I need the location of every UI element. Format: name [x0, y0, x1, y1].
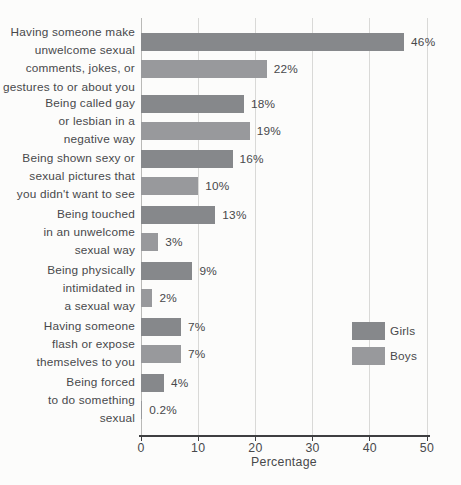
category-label: Having someone flash or expose themselve…	[0, 317, 135, 372]
value-label: 2%	[159, 289, 176, 307]
x-axis-tick-label: 40	[355, 441, 385, 455]
legend-swatch-girls	[352, 322, 385, 340]
y-axis-line	[141, 18, 142, 435]
category-label: Being forced to do something sexual	[0, 373, 135, 428]
category-label: Being shown sexy or sexual pictures that…	[0, 149, 135, 204]
value-label: 7%	[188, 345, 205, 363]
bar-boys	[141, 60, 267, 78]
value-label: 4%	[171, 374, 188, 392]
gridline	[198, 18, 199, 435]
category-label: Being touched in an unwelcome sexual way	[0, 205, 135, 260]
value-label: 46%	[411, 33, 435, 51]
value-label: 13%	[222, 206, 246, 224]
gridline	[369, 18, 370, 435]
bar-girls	[141, 95, 244, 113]
bar-boys	[141, 122, 250, 140]
category-label: Being physically intimidated in a sexual…	[0, 261, 135, 316]
value-label: 7%	[188, 318, 205, 336]
x-axis-tick-label: 10	[183, 441, 213, 455]
value-label: 0.2%	[149, 401, 177, 419]
value-label: 3%	[165, 233, 182, 251]
bar-boys	[141, 345, 181, 363]
bar-boys	[141, 233, 158, 251]
x-axis-title: Percentage	[141, 455, 427, 469]
bar-girls	[141, 33, 404, 51]
gridline	[427, 18, 428, 435]
harassment-bar-chart: 46%18%16%13%9%7%4%22%19%10%3%2%7%0.2% Pe…	[0, 0, 461, 485]
legend-label-girls: Girls	[390, 322, 415, 340]
gridline	[312, 18, 313, 435]
value-label: 19%	[257, 122, 281, 140]
value-label: 9%	[199, 262, 216, 280]
value-label: 10%	[205, 177, 229, 195]
category-label: Being called gay or lesbian in a negativ…	[0, 94, 135, 149]
value-label: 18%	[251, 95, 275, 113]
bar-boys	[141, 401, 142, 419]
value-label: 22%	[274, 60, 298, 78]
x-axis-tick-label: 0	[126, 441, 156, 455]
plot-area: 46%18%16%13%9%7%4%22%19%10%3%2%7%0.2%	[141, 18, 427, 435]
bar-girls	[141, 374, 164, 392]
bar-girls	[141, 262, 192, 280]
bar-boys	[141, 289, 152, 307]
x-axis-line	[139, 435, 430, 437]
gridline	[255, 18, 256, 435]
bar-girls	[141, 150, 233, 168]
value-label: 16%	[240, 150, 264, 168]
x-axis-tick-label: 50	[412, 441, 442, 455]
bar-girls	[141, 318, 181, 336]
bar-boys	[141, 177, 198, 195]
category-label: Having someone make unwelcome sexual com…	[0, 23, 135, 97]
legend-swatch-boys	[352, 347, 385, 365]
legend-label-boys: Boys	[390, 347, 417, 365]
bar-girls	[141, 206, 215, 224]
x-axis-tick-label: 30	[298, 441, 328, 455]
x-axis-tick-label: 20	[240, 441, 270, 455]
